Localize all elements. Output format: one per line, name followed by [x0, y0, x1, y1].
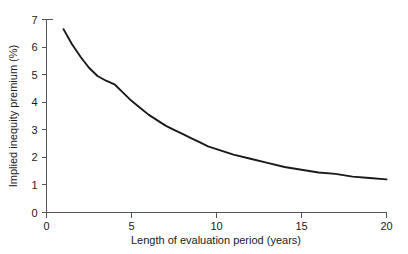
y-tick-label: 3	[31, 124, 37, 136]
y-tick-label: 5	[31, 69, 37, 81]
y-tick-label: 1	[31, 179, 37, 191]
chart-figure: 01234567 05101520 Implied inequity premi…	[0, 0, 408, 254]
x-tick-label: 10	[210, 220, 222, 232]
y-tick-label: 2	[31, 151, 37, 163]
y-tick-label: 0	[31, 207, 37, 219]
x-tick-label: 20	[380, 220, 392, 232]
line-chart-plot: 01234567 05101520 Implied inequity premi…	[0, 0, 408, 254]
y-tick-label: 7	[31, 14, 37, 26]
y-tick-label: 6	[31, 41, 37, 53]
x-tick-label: 5	[128, 220, 134, 232]
y-axis-label: Implied inequity premium (%)	[7, 45, 19, 187]
y-tick-label: 4	[31, 96, 37, 108]
x-tick-label: 15	[295, 220, 307, 232]
plot-background	[0, 0, 408, 254]
x-tick-label: 0	[43, 220, 49, 232]
x-axis-label: Length of evaluation period (years)	[131, 234, 301, 246]
